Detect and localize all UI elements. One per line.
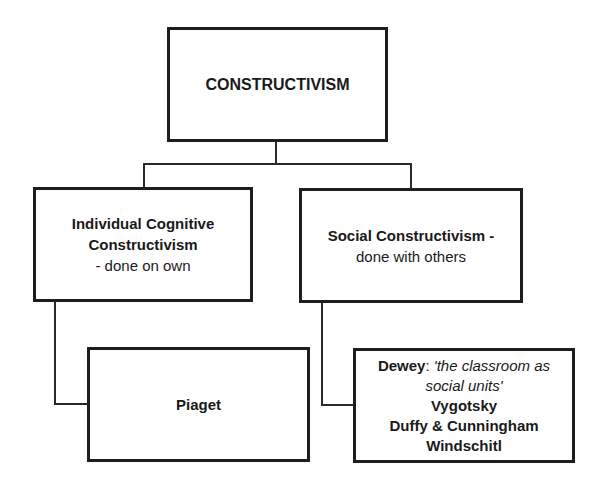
connector-to-right-child — [410, 163, 412, 189]
node-subtitle: done with others — [356, 246, 466, 267]
leaf-node-piaget: Piaget — [87, 347, 310, 462]
dewey-name: Dewey — [378, 357, 426, 374]
dewey-quote-part-1: 'the classroom as — [430, 357, 550, 374]
leaf-label: Piaget — [176, 394, 221, 415]
leaf-node-social-theorists: Dewey: 'the classroom as social units' V… — [353, 348, 575, 463]
connector-left-across — [54, 403, 88, 405]
theorist-windschitl: Windschitl — [426, 436, 502, 456]
dewey-line: Dewey: 'the classroom as — [378, 356, 550, 376]
node-social-constructivism: Social Constructivism - done with others — [299, 188, 523, 303]
connector-left-down — [54, 302, 56, 404]
connector-right-across — [321, 404, 353, 406]
node-individual-cognitive-constructivism: Individual Cognitive Constructivism - do… — [33, 187, 253, 302]
connector-root-stem — [275, 142, 277, 164]
theorist-duffy-cunningham: Duffy & Cunningham — [389, 416, 538, 436]
root-node-constructivism: CONSTRUCTIVISM — [167, 27, 388, 142]
connector-horizontal-bar — [143, 163, 411, 165]
node-title-line-2: Constructivism — [88, 234, 197, 255]
root-node-label: CONSTRUCTIVISM — [206, 76, 350, 94]
node-subtitle: - done on own — [95, 255, 190, 276]
node-title-line-1: Individual Cognitive — [72, 213, 215, 234]
connector-to-left-child — [143, 163, 145, 188]
theorist-vygotsky: Vygotsky — [431, 396, 497, 416]
node-title: Social Constructivism - — [328, 225, 495, 246]
dewey-quote-part-2: social units' — [425, 376, 502, 396]
connector-right-down — [321, 303, 323, 405]
